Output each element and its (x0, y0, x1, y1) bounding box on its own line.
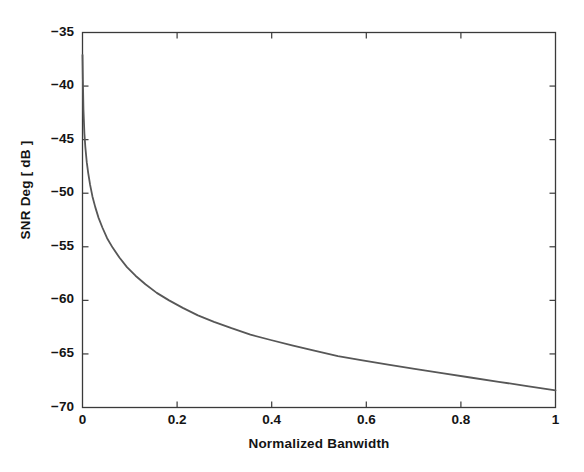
plot-canvas (0, 0, 584, 472)
chart-figure: SNR Deg [ dB ] Normalized Banwidth −35−4… (0, 0, 584, 472)
